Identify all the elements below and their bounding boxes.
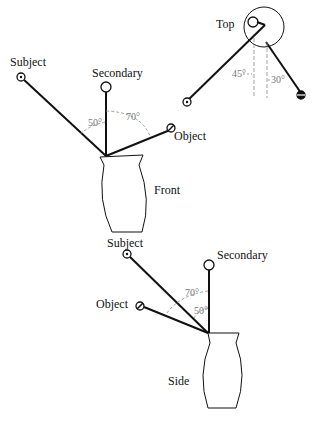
- front-view: [17, 73, 175, 232]
- top-view: [183, 7, 305, 106]
- front-secondary-label: Secondary: [92, 67, 143, 79]
- top-view-label: Top: [216, 18, 235, 30]
- front-vase: [100, 155, 146, 232]
- side-view-label: Side: [168, 375, 189, 387]
- top-object-rod: [266, 42, 301, 93]
- side-angle-subject: 50°: [194, 306, 208, 316]
- top-subject-rod: [187, 25, 265, 101]
- side-vase: [203, 333, 242, 408]
- front-subject-light-icon: [17, 73, 25, 81]
- side-object-label: Object: [96, 298, 128, 310]
- front-subject-label: Subject: [10, 56, 46, 68]
- side-secondary-light-icon: [204, 260, 214, 270]
- lighting-diagram: Subject Secondary Object Front 50° 70° T…: [0, 0, 315, 429]
- top-angle-right: 30°: [271, 75, 285, 85]
- front-view-label: Front: [154, 184, 180, 196]
- top-angle-left: 45°: [232, 69, 246, 79]
- front-angle-subject: 50°: [88, 118, 102, 128]
- top-subject-light-icon: [183, 98, 191, 106]
- diagram-canvas: [0, 0, 315, 429]
- side-object-light-icon: [136, 302, 144, 310]
- side-angle-object: 70°: [185, 288, 199, 298]
- front-object-rod: [106, 130, 170, 156]
- front-object-label: Object: [174, 130, 206, 142]
- front-angle-object: 70°: [126, 112, 140, 122]
- side-subject-label: Subject: [107, 237, 143, 249]
- top-object-light-icon: [297, 91, 305, 99]
- front-secondary-light-icon: [101, 82, 111, 92]
- side-subject-light-icon: [123, 250, 131, 258]
- side-secondary-label: Secondary: [217, 249, 268, 261]
- top-secondary-light-icon: [248, 17, 258, 27]
